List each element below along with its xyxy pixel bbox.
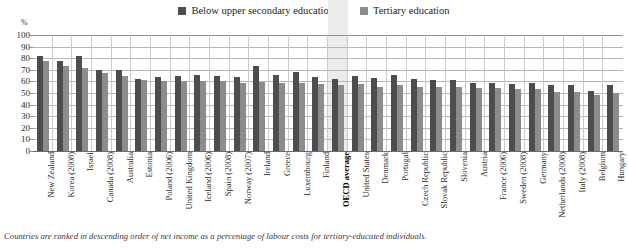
bar-tertiary (63, 66, 69, 151)
bar-group (505, 35, 525, 151)
legend-label: Tertiary education (373, 6, 450, 17)
y-axis-tick-label: 80 (21, 54, 30, 63)
x-axis-category: United States (348, 152, 368, 224)
x-axis-category: Sweden (2008) (505, 152, 525, 224)
x-axis-category: Finland (308, 152, 328, 224)
bar-tertiary (515, 89, 521, 151)
x-axis-category: Italy (2008) (564, 152, 584, 224)
bar-tertiary (122, 76, 128, 151)
plot-area: 1009080706050403020100 (33, 35, 623, 151)
x-axis-category: OECD average (328, 152, 348, 224)
bar-tertiary (102, 73, 108, 151)
x-axis-category: France (2006) (485, 152, 505, 224)
bar-group (308, 35, 328, 151)
x-axis-category: Norway (2007) (230, 152, 250, 224)
bar-group (485, 35, 505, 151)
x-axis-category: Czech Republic (407, 152, 427, 224)
bar-tertiary (279, 83, 285, 151)
bar-tertiary (220, 81, 226, 151)
x-axis-category-labels: New ZealandKorea (2008)IsraelCanada (200… (33, 152, 623, 224)
x-axis-category: Germany (525, 152, 545, 224)
bar-group (112, 35, 132, 151)
y-axis-tick-label: 40 (21, 100, 30, 109)
x-axis-category: Poland (2006) (151, 152, 171, 224)
bar-group (151, 35, 171, 151)
bar-tertiary (200, 81, 206, 151)
bar-group (367, 35, 387, 151)
x-axis-category: Portugal (387, 152, 407, 224)
bar-tertiary (259, 82, 265, 151)
legend-item-tertiary: Tertiary education (360, 6, 450, 17)
bar-tertiary (181, 81, 187, 151)
bar-tertiary (141, 80, 147, 151)
bar-group (584, 35, 604, 151)
bar-tertiary (43, 61, 49, 151)
y-axis-tick-label: 100 (17, 31, 31, 40)
bar-group (249, 35, 269, 151)
bar-group (190, 35, 210, 151)
square-swatch-icon (360, 7, 368, 15)
bar-group (210, 35, 230, 151)
bar-tertiary (594, 95, 600, 151)
x-axis-category: Ireland (249, 152, 269, 224)
x-axis-category: Australia (112, 152, 132, 224)
square-swatch-icon (178, 7, 186, 15)
y-axis-tick-label: 20 (21, 123, 30, 132)
x-axis-category: Greece (269, 152, 289, 224)
y-axis-unit-label: % (21, 18, 28, 27)
bar-group (426, 35, 446, 151)
x-axis-category: New Zealand (33, 152, 53, 224)
bar-group (53, 35, 73, 151)
bar-tertiary (613, 93, 619, 151)
bar-group (269, 35, 289, 151)
x-axis-category: Hungary (603, 152, 623, 224)
x-axis-category: Netherlands (2008) (544, 152, 564, 224)
x-axis-category: Canada (2008) (92, 152, 112, 224)
bar-group (171, 35, 191, 151)
bar-tertiary (318, 84, 324, 151)
x-axis-category: Estonia (131, 152, 151, 224)
x-axis-category: Denmark (367, 152, 387, 224)
y-axis-tick-label: 10 (21, 135, 30, 144)
chart-legend: Below upper secondary education Tertiary… (0, 3, 628, 19)
y-axis-tick-label: 60 (21, 77, 30, 86)
x-axis-category: Luxembourg (289, 152, 309, 224)
bar-tertiary (338, 85, 344, 151)
bar-group (564, 35, 584, 151)
bar-series-container (33, 35, 623, 151)
chart-figure: Below upper secondary education Tertiary… (0, 0, 628, 249)
x-axis-category-label: Hungary (618, 152, 627, 182)
y-axis-tick-label: 70 (21, 65, 30, 74)
bar-group (328, 35, 348, 151)
x-axis-category: Iceland (2006) (190, 152, 210, 224)
bar-tertiary (554, 92, 560, 151)
bar-group (230, 35, 250, 151)
bar-tertiary (476, 88, 482, 151)
bar-tertiary (495, 88, 501, 151)
bar-tertiary (358, 84, 364, 151)
y-axis-tick-label: 90 (21, 42, 30, 51)
x-axis-category: Slovak Republic (426, 152, 446, 224)
legend-label: Below upper secondary education (191, 6, 334, 17)
bar-tertiary (397, 85, 403, 151)
bar-tertiary (574, 92, 580, 151)
x-axis-category: Israel (72, 152, 92, 224)
bar-group (72, 35, 92, 151)
bar-tertiary (456, 87, 462, 151)
bar-group (407, 35, 427, 151)
bar-group (544, 35, 564, 151)
chart-footnote: Countries are ranked in descending order… (4, 231, 427, 241)
bar-group (92, 35, 112, 151)
bar-group (603, 35, 623, 151)
x-axis-category: United Kingdom (171, 152, 191, 224)
bar-tertiary (240, 83, 246, 151)
x-axis-category: Austria (466, 152, 486, 224)
x-axis-category: Belgium (584, 152, 604, 224)
bar-group (131, 35, 151, 151)
bar-tertiary (299, 83, 305, 151)
bar-group (348, 35, 368, 151)
bar-tertiary (417, 87, 423, 151)
y-axis-tick-label: 30 (21, 112, 30, 121)
bar-group (387, 35, 407, 151)
legend-item-below-upper-secondary: Below upper secondary education (178, 6, 334, 17)
